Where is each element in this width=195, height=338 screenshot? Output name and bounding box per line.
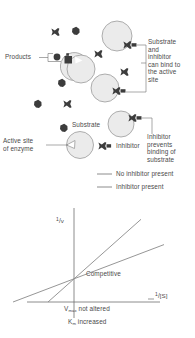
inhibitor-molecule-free xyxy=(94,50,102,58)
label-active-site-of-enzyme: Active site of enzyme xyxy=(3,137,47,152)
inhibitor-molecule-free xyxy=(63,100,71,108)
enzyme-with-inhibitor-bound xyxy=(91,74,126,102)
substrate-molecule-free xyxy=(34,100,42,108)
bind-active-site-leader-line xyxy=(126,45,146,92)
label-substrate-and-inhibitor-bind: Substrate and inhibitor can bind to the … xyxy=(148,38,194,84)
label-inhibitor-prevents-binding: Inhibitor prevents binding of substrate xyxy=(147,133,193,163)
series-line-inhibitor xyxy=(48,219,141,302)
label-products: Products xyxy=(5,53,31,61)
product-molecule-circle xyxy=(54,54,61,61)
legend-label-inhibitor: Inhibitor present xyxy=(116,183,164,191)
inhibitor-molecule-free xyxy=(51,28,59,36)
inhibitor-legend-glyph xyxy=(98,142,111,150)
x-axis-label: 1/[S] xyxy=(155,292,168,301)
x-axis-label-numerator: 1 xyxy=(155,291,158,297)
enzyme-with-inhibitor-blocking xyxy=(108,111,142,137)
enzyme-empty-active-site xyxy=(67,132,94,159)
note-km-text: increased xyxy=(78,318,107,325)
inhibitor-prevents-leader-line xyxy=(142,118,152,134)
y-axis-label-numerator: 1 xyxy=(56,216,59,222)
enzyme-with-inhibitor-bound xyxy=(102,21,137,51)
molecule-scene xyxy=(34,21,152,159)
x-axis-label-denominator: [S] xyxy=(160,292,168,299)
legend-label-no-inhibitor: No inhibitor present xyxy=(116,170,173,178)
plot-annotation-competitive: Competitive xyxy=(86,270,121,278)
chart-legend xyxy=(97,174,112,187)
label-inhibitor: Inhibitor xyxy=(116,142,140,150)
inhibitor-molecule-free xyxy=(120,68,128,76)
substrate-molecule-free xyxy=(72,27,80,35)
note-vmax: Vmax not altered xyxy=(64,305,110,314)
note-km: Km increased xyxy=(68,318,106,327)
note-vmax-subscript: max xyxy=(68,308,76,313)
label-substrate: Substrate xyxy=(72,121,100,129)
substrate-molecule-free xyxy=(58,79,66,87)
note-vmax-text: not altered xyxy=(78,305,109,312)
y-axis-label-denominator: v xyxy=(61,217,64,224)
substrate-legend-glyph xyxy=(60,124,68,132)
y-axis-label: 1/v xyxy=(56,217,64,226)
lineweaver-burk-plot xyxy=(13,208,164,318)
note-km-subscript: m xyxy=(72,321,76,326)
